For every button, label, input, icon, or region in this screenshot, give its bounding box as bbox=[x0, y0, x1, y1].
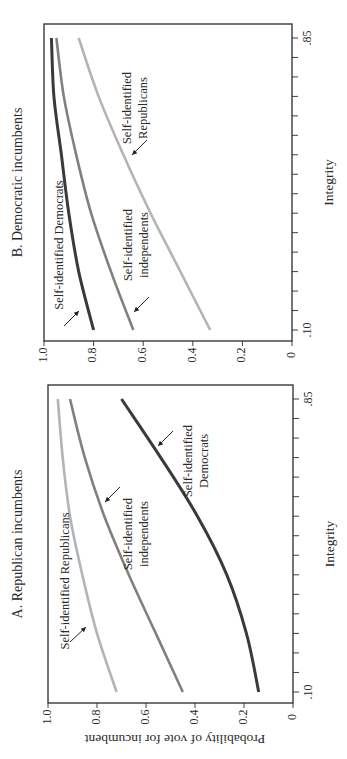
panel-title: A. Republican incumbents bbox=[10, 470, 25, 619]
figure: .85.10Integrity00.20.40.60.81.0B. Democr… bbox=[0, 0, 347, 759]
probability-tick-label: 0 bbox=[285, 714, 299, 720]
label-independents-line2: independents bbox=[137, 212, 151, 278]
label-republicans-line1: Self-identified bbox=[120, 71, 134, 144]
arrow-republicans bbox=[70, 627, 86, 642]
probability-tick-label: 1.0 bbox=[36, 348, 50, 363]
label-republicans: Self-identified Republicans bbox=[58, 512, 72, 649]
probability-tick-label: 1.0 bbox=[40, 710, 54, 725]
arrow-republicans bbox=[132, 140, 147, 155]
arrow-independents bbox=[134, 297, 149, 312]
panel-democratic-incumbents: .85.10Integrity00.20.40.60.81.0B. Democr… bbox=[10, 24, 336, 363]
label-independents-line1: Self-identified bbox=[121, 208, 135, 281]
label-democrats-line1: Self-identified bbox=[181, 424, 195, 497]
panel-republican-incumbents: .85.10Integrity00.20.40.60.81.0A. Republ… bbox=[10, 385, 337, 747]
probability-tick-label: 0.8 bbox=[89, 710, 103, 725]
probability-tick-label: 0.2 bbox=[236, 710, 250, 725]
label-democrats-line2: Democrats bbox=[197, 434, 211, 488]
label-independents-line1: Self-identified bbox=[121, 497, 135, 570]
probability-tick-label: 0.8 bbox=[85, 348, 99, 363]
arrow-democrats bbox=[158, 431, 173, 446]
integrity-axis-label: Integrity bbox=[321, 159, 336, 206]
integrity-max-label: .85 bbox=[301, 392, 315, 407]
label-independents-line2: independents bbox=[137, 501, 151, 567]
integrity-min-label: .10 bbox=[300, 323, 314, 338]
label-republicans-line2: Republicans bbox=[136, 77, 150, 139]
arrow-independents bbox=[105, 487, 120, 502]
probability-tick-label: 0 bbox=[284, 352, 298, 358]
integrity-max-label: .85 bbox=[300, 31, 314, 46]
integrity-axis-label: Integrity bbox=[322, 521, 337, 568]
integrity-min-label: .10 bbox=[301, 685, 315, 700]
arrow-democrats bbox=[64, 311, 79, 326]
probability-tick-label: 0.2 bbox=[234, 348, 248, 363]
probability-tick-label: 0.4 bbox=[185, 348, 199, 363]
panel-title: B. Democratic incumbents bbox=[10, 108, 25, 258]
plot-frame bbox=[44, 24, 292, 341]
plot-frame bbox=[48, 385, 293, 703]
label-democrats: Self-identified Democrats bbox=[52, 180, 66, 310]
probability-axis-label: Probability of vote for incumbent bbox=[84, 732, 265, 747]
probability-tick-label: 0.4 bbox=[187, 710, 201, 725]
probability-tick-label: 0.6 bbox=[138, 710, 152, 725]
figure-svg: .85.10Integrity00.20.40.60.81.0B. Democr… bbox=[0, 0, 347, 759]
probability-tick-label: 0.6 bbox=[135, 348, 149, 363]
